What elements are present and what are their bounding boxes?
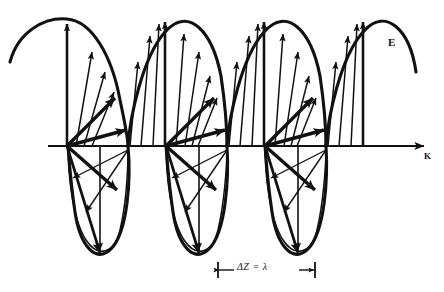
helix-lobe-4-trailing: [326, 21, 416, 146]
field-vectors-up-lobe-3: [229, 22, 316, 146]
field-vectors-up-lobe-2: [130, 22, 217, 146]
field-vectors-up-lobe-1: [67, 24, 114, 146]
rotating-vectors-lobe-3: [265, 98, 324, 253]
rotating-vectors-lobe-1: [67, 98, 126, 253]
helix-lobe-3: [227, 21, 327, 254]
wavelength-label: ΔZ = λ: [237, 262, 268, 272]
propagation-axis-label-k: K: [424, 152, 431, 161]
field-vector-label-e: E: [388, 37, 395, 48]
helix-lobe-2: [128, 21, 228, 254]
rotating-vectors-lobe-2: [166, 98, 225, 253]
wave-diagram-canvas: [0, 0, 444, 292]
wave-diagram-figure: E K ΔZ = λ: [0, 0, 444, 292]
helix-lobe-1: [10, 19, 129, 255]
